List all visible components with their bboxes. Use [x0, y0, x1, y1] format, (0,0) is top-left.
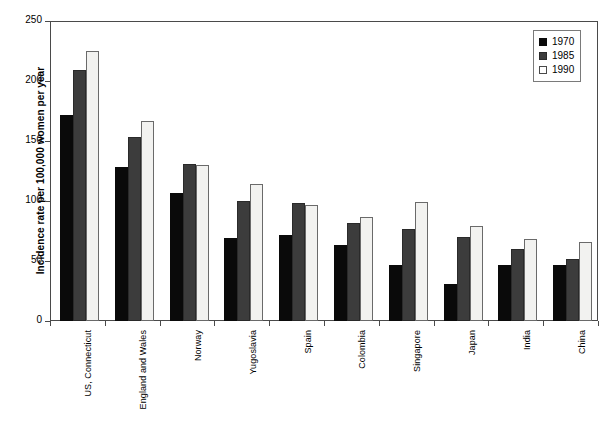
bar-group: [279, 21, 318, 321]
bar: [250, 184, 263, 321]
bar-group: [60, 21, 99, 321]
bar: [579, 242, 592, 321]
bar: [553, 265, 566, 321]
bar-group: [498, 21, 537, 321]
bar: [389, 265, 402, 321]
bar: [292, 203, 305, 321]
bar: [237, 201, 250, 321]
bar: [334, 245, 347, 321]
x-axis-tick-mark: [324, 321, 325, 326]
legend-swatch-icon: [539, 66, 547, 74]
bar: [511, 249, 524, 321]
bar-group: [334, 21, 373, 321]
x-axis-category-label: US, Connecticut: [83, 330, 93, 397]
x-axis-tick-mark: [434, 321, 435, 326]
x-axis-tick-mark: [488, 321, 489, 326]
x-axis-category-label: Spain: [303, 330, 313, 354]
x-axis-tick-mark: [214, 321, 215, 326]
x-axis-category-label: England and Wales: [138, 330, 148, 409]
bar: [347, 223, 360, 321]
x-axis-category-label: Japan: [467, 330, 477, 355]
x-axis-tick-mark: [105, 321, 106, 326]
bar: [524, 239, 537, 321]
bar: [470, 226, 483, 321]
x-axis-category-label: China: [577, 330, 587, 354]
bar: [402, 229, 415, 321]
legend-swatch-icon: [539, 52, 547, 60]
x-axis-category-label: Singapore: [412, 330, 422, 372]
x-axis-tick-mark: [543, 321, 544, 326]
bar-group: [444, 21, 483, 321]
bar: [196, 165, 209, 321]
x-axis-category-label: Yugoslavia: [248, 330, 258, 375]
x-axis-category-label: Colombia: [357, 330, 367, 369]
x-axis-category-label: Norway: [193, 330, 203, 361]
bar-chart: Incidence rate per 100,000 women per yea…: [0, 0, 616, 424]
bar: [128, 137, 141, 321]
bar: [170, 193, 183, 321]
x-axis-tick-mark: [598, 321, 599, 326]
x-axis-tick-mark: [269, 321, 270, 326]
legend-item-label: 1985: [552, 51, 574, 61]
legend: 197019851990: [533, 30, 581, 82]
bar: [73, 70, 86, 321]
bar: [183, 164, 196, 321]
x-axis-category-label: India: [522, 330, 532, 350]
legend-item[interactable]: 1970: [539, 35, 574, 49]
bar-group: [389, 21, 428, 321]
y-axis-tick-label: 150: [25, 134, 42, 145]
bar: [224, 238, 237, 321]
legend-swatch-icon: [539, 38, 547, 46]
bar: [86, 51, 99, 321]
bar-group: [115, 21, 154, 321]
bar: [141, 121, 154, 321]
y-axis-tick-label: 200: [25, 74, 42, 85]
bar: [415, 202, 428, 321]
bar-group: [170, 21, 209, 321]
bar: [115, 167, 128, 321]
legend-item-label: 1990: [552, 65, 574, 75]
bar: [360, 217, 373, 321]
bar-group: [224, 21, 263, 321]
legend-item-label: 1970: [552, 37, 574, 47]
legend-item[interactable]: 1990: [539, 63, 574, 77]
bar: [60, 115, 73, 321]
y-axis-tick-label: 0: [36, 314, 42, 325]
y-axis-tick-label: 100: [25, 194, 42, 205]
bar: [457, 237, 470, 321]
bar: [279, 235, 292, 321]
bar: [444, 284, 457, 321]
bar: [305, 205, 318, 321]
x-axis-tick-mark: [50, 321, 51, 326]
y-axis-tick-label: 250: [25, 14, 42, 25]
x-axis-tick-mark: [160, 321, 161, 326]
legend-item[interactable]: 1985: [539, 49, 574, 63]
bar: [498, 265, 511, 321]
bars-layer: [50, 21, 598, 321]
x-axis-tick-mark: [379, 321, 380, 326]
y-axis-tick-label: 50: [31, 254, 42, 265]
bar: [566, 259, 579, 321]
